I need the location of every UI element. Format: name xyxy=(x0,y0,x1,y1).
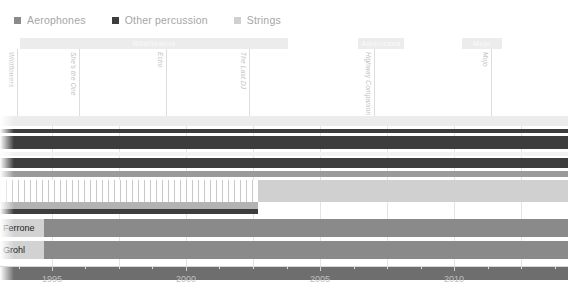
striped-fill xyxy=(0,180,258,202)
axis-tick-minor xyxy=(421,266,422,269)
square-swatch-icon xyxy=(112,17,119,24)
phase-bar-wildflowers[interactable]: Wildflowers xyxy=(20,38,288,49)
axis-tick-minor xyxy=(119,266,120,269)
row-band-6[interactable] xyxy=(0,171,568,177)
row-band-7[interactable] xyxy=(0,180,258,202)
axis-tick-major xyxy=(52,266,53,271)
square-swatch-icon xyxy=(14,17,21,24)
legend: AerophonesOther percussionStrings xyxy=(14,12,281,28)
album-marker-line xyxy=(166,49,167,123)
axis-tick-minor xyxy=(152,266,153,269)
row-band-2[interactable] xyxy=(0,129,568,133)
axis-tick-major xyxy=(454,266,455,271)
album-marker-label: She's the One xyxy=(70,52,77,96)
axis-tick-label: 2000 xyxy=(176,274,196,284)
album-marker-line xyxy=(374,49,375,123)
legend-item-other-percussion[interactable]: Other percussion xyxy=(112,14,208,26)
album-marker-line xyxy=(79,49,80,123)
row-grohl[interactable]: Grohl xyxy=(0,241,568,259)
row-band-5[interactable] xyxy=(0,158,568,168)
row-band-9[interactable] xyxy=(0,209,258,214)
axis-tick-label: 2005 xyxy=(310,274,330,284)
row-band-7b[interactable] xyxy=(258,180,568,202)
band-label: Ferrone xyxy=(3,224,35,233)
axis-tick-minor xyxy=(488,266,489,269)
axis-tick-minor xyxy=(219,266,220,269)
album-marker-label: Mojo xyxy=(482,52,489,67)
axis-tick-minor xyxy=(387,266,388,269)
phase-bar-americana[interactable]: Americana xyxy=(358,38,404,49)
legend-item-aerophones[interactable]: Aerophones xyxy=(14,14,86,26)
axis-tick-minor xyxy=(19,266,20,269)
phase-bar-mojo[interactable]: Mojo xyxy=(462,38,502,49)
axis-tick-minor xyxy=(253,266,254,269)
axis-tick-minor xyxy=(354,266,355,269)
axis-tick-minor xyxy=(287,266,288,269)
x-axis: 1995200020052010 xyxy=(0,266,568,301)
axis-tick-major xyxy=(186,266,187,271)
axis-tick-minor xyxy=(521,266,522,269)
axis-tick-major xyxy=(320,266,321,271)
phase-bar-label: Mojo xyxy=(473,40,491,47)
phase-bar-label: Americana xyxy=(361,40,400,47)
album-marker-label: The Last DJ xyxy=(240,52,247,89)
row-band-1[interactable] xyxy=(0,116,568,126)
album-marker-line xyxy=(249,49,250,123)
square-swatch-icon xyxy=(234,17,241,24)
chart-plot-area: WildflowersAmericanaMojoWildflowersShe's… xyxy=(0,36,568,266)
album-marker-line xyxy=(17,49,18,123)
row-band-8[interactable] xyxy=(0,202,258,209)
row-ferrone[interactable]: Ferrone xyxy=(0,219,568,237)
axis-tick-label: 2010 xyxy=(444,274,464,284)
legend-item-strings[interactable]: Strings xyxy=(234,14,281,26)
album-marker-label: Echo xyxy=(157,52,164,68)
row-band-4[interactable] xyxy=(0,152,568,156)
album-marker-line xyxy=(491,49,492,123)
row-band-3[interactable] xyxy=(0,136,568,149)
axis-tick-label: 1995 xyxy=(42,274,62,284)
phase-bar-label: Wildflowers xyxy=(132,40,176,47)
axis-tick-minor xyxy=(555,266,556,269)
album-marker-label: Highway Companion xyxy=(365,52,372,115)
album-marker-label: Wildflowers xyxy=(8,52,15,87)
legend-item-label: Strings xyxy=(247,14,281,26)
band-label: Grohl xyxy=(3,246,25,255)
legend-item-label: Aerophones xyxy=(27,14,86,26)
axis-tick-minor xyxy=(85,266,86,269)
legend-item-label: Other percussion xyxy=(125,14,208,26)
